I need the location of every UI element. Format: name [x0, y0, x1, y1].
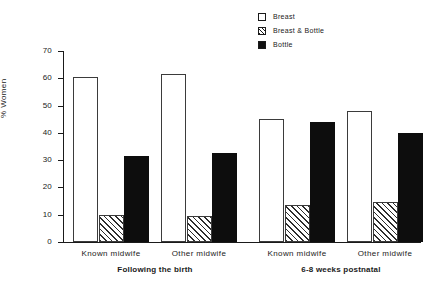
- x-group-label-1: Following the birth: [95, 265, 215, 274]
- y-tick-label-40: 40: [32, 129, 52, 137]
- y-tick-label-30: 30: [32, 156, 52, 164]
- bar-bottle-group3: [310, 122, 335, 242]
- bar-breast-group4: [347, 111, 372, 242]
- legend-swatch-bottle-icon: [258, 41, 266, 49]
- y-axis-title-label: % Women: [0, 78, 8, 118]
- bar-breast-bottle-group1: [99, 215, 124, 242]
- y-tick-label-60: 60: [32, 74, 52, 82]
- bar-breast-group1: [73, 77, 98, 242]
- bar-breast-group3: [259, 119, 284, 242]
- legend-item-breast: Breast: [258, 11, 324, 23]
- bar-breast-bottle-group3: [285, 205, 310, 242]
- y-tick-0: [58, 242, 63, 243]
- legend-item-breast-and-bottle: Breast & Bottle: [258, 25, 324, 37]
- x-group-label-2: 6-8 weeks postnatal: [281, 265, 401, 274]
- bar-bottle-group2: [212, 153, 237, 242]
- legend-swatch-breast-icon: [258, 13, 266, 21]
- legend-label-breast-and-bottle: Breast & Bottle: [273, 27, 324, 35]
- legend-label-breast: Breast: [273, 13, 295, 21]
- y-tick-label-10: 10: [32, 211, 52, 219]
- y-tick-label-70: 70: [32, 47, 52, 55]
- bar-bottle-group1: [124, 156, 149, 242]
- y-tick-label-20: 20: [32, 183, 52, 191]
- x-category-label-3: Known midwife: [252, 249, 342, 258]
- bar-breast-bottle-group2: [187, 216, 212, 242]
- bar-chart: Breast Breast & Bottle Bottle 0102030405…: [0, 0, 436, 289]
- chart-legend: Breast Breast & Bottle Bottle: [258, 11, 324, 53]
- bar-bottle-group4: [398, 133, 423, 242]
- legend-swatch-breast-and-bottle-icon: [258, 27, 266, 35]
- y-tick-label-0: 0: [32, 238, 52, 246]
- bar-breast-bottle-group4: [373, 202, 398, 242]
- x-category-label-4: Other midwife: [340, 249, 430, 258]
- legend-label-bottle: Bottle: [273, 41, 293, 49]
- y-axis-title: % Women: [0, 38, 6, 118]
- y-tick-label-50: 50: [32, 102, 52, 110]
- plot-area: [63, 51, 421, 242]
- bar-breast-group2: [161, 74, 186, 242]
- legend-item-bottle: Bottle: [258, 39, 324, 51]
- x-category-label-2: Other midwife: [154, 249, 244, 258]
- x-category-label-1: Known midwife: [66, 249, 156, 258]
- x-axis-line: [63, 242, 421, 243]
